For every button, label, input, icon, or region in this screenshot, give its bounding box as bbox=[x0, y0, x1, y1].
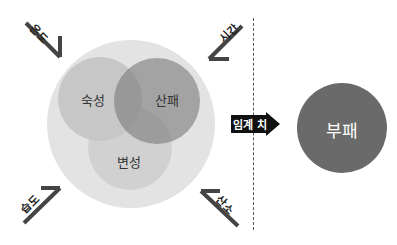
result-label: 부패 bbox=[297, 117, 387, 142]
threshold-label: 임계 치 bbox=[233, 116, 267, 132]
threshold-arrow: 임계 치 bbox=[231, 112, 281, 136]
arrow-head-icon bbox=[266, 112, 280, 136]
